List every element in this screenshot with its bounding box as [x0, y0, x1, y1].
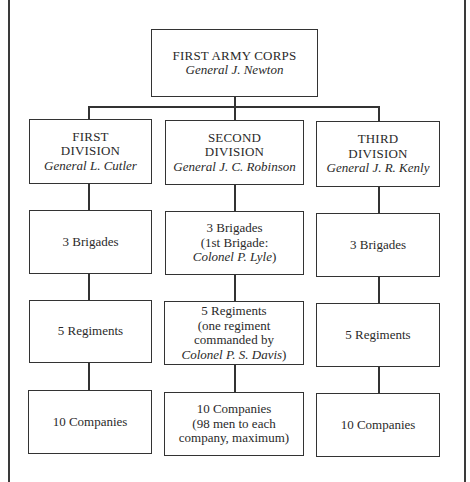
connector-div2-regiments	[234, 274, 236, 302]
connector-bus-div1	[88, 106, 90, 120]
division-box-third: THIRD DIVISION General J. R. Kenly	[316, 121, 440, 187]
brigades-label: 3 Brigades	[207, 221, 263, 236]
regiments-note-line1: (one regiment	[198, 319, 271, 334]
connector-div3-companies	[378, 366, 380, 395]
division-title-line1: THIRD	[358, 132, 399, 147]
connector-div1-brigades	[88, 183, 90, 211]
division-title-line1: FIRST	[72, 130, 108, 145]
division-box-first: FIRST DIVISION General L. Cutler	[29, 119, 152, 184]
brigades-box-second: 3 Brigades (1st Brigade: Colonel P. Lyle…	[165, 211, 304, 275]
regiments-note-close: )	[282, 347, 286, 362]
connector-bus-div2	[234, 106, 236, 121]
division-title-line2: DIVISION	[348, 147, 407, 162]
brigades-box-third: 3 Brigades	[316, 213, 440, 277]
companies-note-line1: (98 men to each	[192, 417, 275, 432]
division-title-line1: SECOND	[208, 131, 261, 146]
companies-label: 10 Companies	[53, 415, 128, 430]
connector-div3-regiments	[378, 276, 380, 304]
connector-div2-brigades	[234, 184, 236, 212]
regiments-note-line2: commanded by	[194, 333, 274, 348]
division-box-second: SECOND DIVISION General J. C. Robinson	[165, 120, 304, 185]
brigades-note-line1: (1st Brigade:	[201, 236, 269, 251]
brigades-box-first: 3 Brigades	[29, 210, 152, 274]
division-commander: General L. Cutler	[44, 159, 137, 174]
connector-bus-div3	[378, 106, 380, 122]
brigades-label: 3 Brigades	[350, 238, 406, 253]
companies-note-line2: company, maximum)	[179, 431, 289, 446]
connector-div2-companies	[234, 364, 236, 393]
regiments-box-third: 5 Regiments	[316, 303, 440, 367]
division-commander: General J. C. Robinson	[173, 160, 295, 175]
division-commander: General J. R. Kenly	[327, 161, 430, 176]
division-title-line2: DIVISION	[61, 144, 120, 159]
regiments-label: 5 Regiments	[345, 328, 410, 343]
corps-title: FIRST ARMY CORPS	[173, 49, 297, 64]
corps-commander: General J. Newton	[186, 63, 284, 78]
brigades-note-close: )	[272, 249, 276, 264]
regiments-box-first: 5 Regiments	[29, 300, 152, 363]
companies-label: 10 Companies	[197, 402, 272, 417]
companies-box-first: 10 Companies	[28, 390, 152, 454]
companies-label: 10 Companies	[341, 418, 416, 433]
regiments-label: 5 Regiments	[201, 304, 266, 319]
corps-box: FIRST ARMY CORPS General J. Newton	[151, 29, 318, 97]
brigade-commander: Colonel P. Lyle	[193, 249, 272, 264]
connector-div1-regiments	[88, 273, 90, 301]
frame-left-border	[8, 0, 10, 482]
regiments-label: 5 Regiments	[58, 324, 123, 339]
frame-right-border	[464, 0, 466, 482]
companies-box-third: 10 Companies	[316, 393, 440, 457]
regiments-box-second: 5 Regiments (one regiment commanded by C…	[164, 301, 304, 365]
regiment-commander: Colonel P. S. Davis	[182, 347, 283, 362]
division-title-line2: DIVISION	[205, 145, 264, 160]
companies-box-second: 10 Companies (98 men to each company, ma…	[164, 392, 304, 456]
connector-div1-companies	[88, 362, 90, 391]
brigades-label: 3 Brigades	[63, 235, 119, 250]
connector-div3-brigades	[378, 186, 380, 214]
